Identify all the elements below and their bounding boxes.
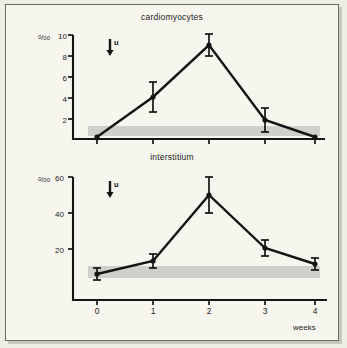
figure-root: cardiomyocytes 0/00 10 8 6 4 2 u bbox=[0, 0, 347, 348]
data-markers-interstitium bbox=[94, 192, 317, 276]
down-arrow-icon-top bbox=[106, 39, 113, 56]
plot-area-cardiomyocytes bbox=[5, 4, 339, 154]
panel-interstitium: interstitium 0/00 60 40 20 u 0 1 2 3 4 w… bbox=[5, 146, 339, 341]
error-bars-interstitium bbox=[93, 177, 319, 280]
down-arrow-icon-bottom bbox=[106, 181, 113, 198]
error-bars-cardiomyocytes bbox=[97, 34, 315, 139]
data-line-interstitium bbox=[97, 195, 315, 274]
panel-cardiomyocytes: cardiomyocytes 0/00 10 8 6 4 2 u bbox=[5, 4, 339, 154]
data-line-cardiomyocytes bbox=[97, 45, 315, 137]
plot-area-interstitium bbox=[5, 146, 339, 341]
data-markers-cardiomyocytes bbox=[94, 42, 317, 139]
